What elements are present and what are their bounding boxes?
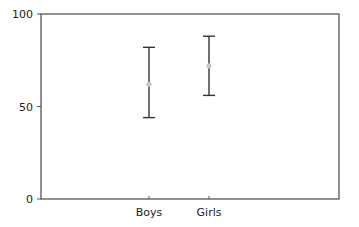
mean-marker xyxy=(206,63,211,68)
error-bar-chart: 100 50 0 Boys Girls xyxy=(0,0,359,227)
error-bars xyxy=(143,36,215,117)
y-tick-label-50: 50 xyxy=(19,101,33,114)
plot-frame xyxy=(41,14,339,199)
mean-marker xyxy=(146,82,151,87)
x-tick-label-girls: Girls xyxy=(197,206,222,219)
y-tick-label-0: 0 xyxy=(26,193,33,206)
x-tick-label-boys: Boys xyxy=(136,206,163,219)
error-bar-boys xyxy=(143,47,155,117)
error-bar-girls xyxy=(203,36,215,95)
y-tick-label-100: 100 xyxy=(12,8,33,21)
y-axis: 100 50 0 xyxy=(12,8,41,206)
